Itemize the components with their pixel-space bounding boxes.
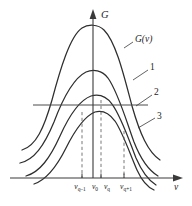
gain-axis-arrow-icon xyxy=(90,9,97,19)
frequency-axis-label: ν xyxy=(174,182,179,192)
tick-label-nu-0: ν0 xyxy=(92,182,98,192)
tick-label-nu-q: νq xyxy=(104,182,110,192)
tick-sub-nu-q-plus-1: q+1 xyxy=(123,186,132,192)
gain-axis-label: G xyxy=(101,9,109,20)
leader-curve-1 xyxy=(133,70,148,80)
curve-gain-profile xyxy=(22,25,160,160)
leader-curve-3 xyxy=(138,118,155,128)
curve-label-3: 3 xyxy=(157,111,162,121)
tick-label-nu-q-minus-1: νq–1 xyxy=(74,182,86,192)
caption-sliver xyxy=(0,199,192,206)
gain-profile-chart: G ν G(ν) 1 2 3 νq–1 ν0 νq νq+1 xyxy=(0,0,192,206)
figure-container: G ν G(ν) 1 2 3 νq–1 ν0 νq νq+1 xyxy=(0,0,192,206)
tick-sub-nu-q-minus-1: q–1 xyxy=(78,186,86,192)
leader-gain-profile xyxy=(124,42,133,48)
tick-sub-nu-q: q xyxy=(107,186,110,192)
curve-label-2: 2 xyxy=(154,87,159,97)
tick-label-group: νq–1 ν0 νq νq+1 xyxy=(74,182,132,192)
leader-curve-2 xyxy=(136,95,152,106)
curve-group xyxy=(20,25,160,190)
tick-label-nu-q-plus-1: νq+1 xyxy=(120,182,132,192)
leader-line-group xyxy=(124,42,155,128)
tick-sub-nu-0: 0 xyxy=(95,186,98,192)
tick-mark-group xyxy=(82,174,124,179)
curve-label-1: 1 xyxy=(150,62,155,72)
frequency-axis-arrow-icon xyxy=(173,175,183,182)
curve-label-gain-profile: G(ν) xyxy=(135,34,152,45)
